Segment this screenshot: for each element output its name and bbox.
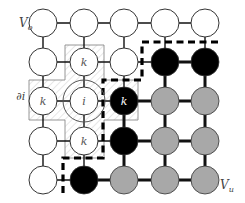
node-label-i: i [82,95,86,108]
node-white-r0c3 [151,9,179,37]
node-white-r0c4 [191,9,219,37]
node-white-r0c0 [29,9,57,37]
node-white-r1c2 [110,48,138,76]
node-gray-r4c4 [191,166,219,194]
node-black-r1c3 [151,48,179,76]
node-black-r4c1 [70,166,98,194]
node-gray-r3c3 [151,127,179,155]
label-vu: Vu [220,178,234,194]
lattice-diagram: kkikk Vo Vu ∂i [0,0,245,203]
node-gray-r4c3 [151,166,179,194]
node-label-k: k [40,95,47,108]
node-white-r1c0 [29,48,57,76]
node-gray-r2c4 [191,87,219,115]
node-label-k: k [81,135,88,148]
label-neighborhood: ∂i [16,90,25,103]
node-gray-r2c3 [151,87,179,115]
node-black-r1c4 [191,48,219,76]
node-label-k: k [81,56,88,69]
node-gray-r4c2 [110,166,138,194]
node-white-r0c1 [70,9,98,37]
node-black-r3c2 [110,127,138,155]
node-gray-r3c4 [191,127,219,155]
node-white-r0c2 [110,9,138,37]
node-white-r4c0 [29,166,57,194]
node-white-r3c0 [29,127,57,155]
node-label-k: k [121,95,128,108]
